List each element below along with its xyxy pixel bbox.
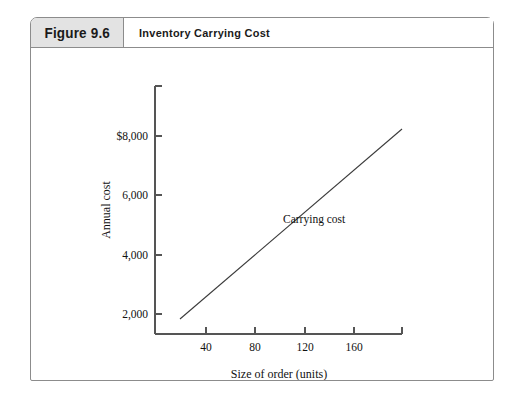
y-axis-ticks (155, 136, 162, 314)
carrying-cost-annotation: Carrying cost (283, 213, 346, 226)
figure-title-bar: Inventory Carrying Cost (124, 18, 493, 47)
x-axis-tick-labels: 40 80 120 160 (200, 341, 363, 353)
x-tick-label-2: 120 (296, 341, 314, 353)
y-tick-label-0: $8,000 (116, 130, 148, 143)
chart-plot-area: $8,000 6,000 4,000 2,000 40 80 120 160 (31, 48, 493, 380)
figure-number-label: Figure 9.6 (44, 25, 110, 41)
y-tick-label-1: 6,000 (122, 189, 148, 202)
figure-frame: Figure 9.6 Inventory Carrying Cost (30, 17, 494, 381)
y-tick-label-2: 4,000 (122, 249, 148, 262)
y-axis-tick-labels: $8,000 6,000 4,000 2,000 (116, 130, 148, 321)
y-axis-title: Annual cost (99, 181, 113, 239)
x-axis-title: Size of order (units) (231, 367, 327, 380)
figure-title: Inventory Carrying Cost (139, 27, 270, 39)
x-tick-label-1: 80 (249, 341, 261, 353)
figure-header: Figure 9.6 Inventory Carrying Cost (31, 18, 493, 48)
figure-number-tab: Figure 9.6 (31, 18, 124, 47)
x-tick-label-3: 160 (345, 341, 363, 353)
y-tick-label-3: 2,000 (122, 308, 148, 321)
x-axis-ticks (206, 327, 354, 334)
x-tick-label-0: 40 (200, 341, 212, 353)
line-chart: $8,000 6,000 4,000 2,000 40 80 120 160 (31, 48, 493, 380)
